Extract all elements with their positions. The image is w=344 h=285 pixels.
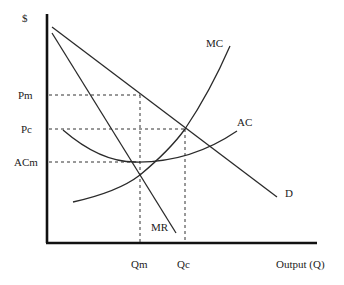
tick-label-acm: ACm xyxy=(14,156,38,168)
marginal-cost-curve xyxy=(73,46,230,202)
economics-diagram: $ Pm Pc ACm Qm Qc Output (Q) MC AC D MR xyxy=(0,0,344,285)
tick-label-pm: Pm xyxy=(18,89,33,101)
x-axis-label: Output (Q) xyxy=(276,258,325,271)
demand-curve xyxy=(52,27,277,197)
average-cost-curve xyxy=(63,130,237,162)
y-axis-label: $ xyxy=(22,12,28,24)
ac-label: AC xyxy=(237,116,252,128)
diagram-canvas: $ Pm Pc ACm Qm Qc Output (Q) MC AC D MR xyxy=(0,0,344,285)
marginal-revenue-curve xyxy=(52,33,176,233)
d-label: D xyxy=(285,187,293,199)
tick-label-pc: Pc xyxy=(21,123,32,135)
mc-label: MC xyxy=(206,37,223,49)
mr-label: MR xyxy=(151,221,169,233)
tick-label-qm: Qm xyxy=(131,258,148,270)
tick-label-qc: Qc xyxy=(177,258,190,270)
